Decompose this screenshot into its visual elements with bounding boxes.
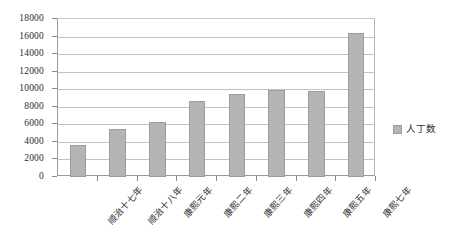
plot-area [57,18,375,176]
y-axis: 0200040006000800010000120001400016000180… [0,0,52,249]
x-category-label: 顺治十八年 [146,185,185,227]
y-tick-label: 8000 [24,101,44,111]
legend-swatch-icon [393,125,402,134]
x-tick-mark [97,176,98,181]
x-category-label: 康熙元年 [183,185,216,220]
x-category-label: 康熙三年 [262,185,295,220]
x-category-label: 康熙七年 [381,185,414,220]
bar [308,91,325,177]
x-tick-mark [296,176,297,181]
x-category-label: 顺治十七年 [106,185,145,227]
x-tick-mark [137,176,138,181]
x-tick-mark [216,176,217,181]
legend-label: 人丁数 [406,124,436,134]
y-tick-label: 0 [39,171,44,181]
x-axis-ticks [57,176,375,182]
y-tick-label: 6000 [24,118,44,128]
x-tick-mark [335,176,336,181]
chart-legend: 人丁数 [393,124,436,134]
bar [348,33,365,177]
bar-chart: 0200040006000800010000120001400016000180… [0,0,460,249]
y-tick-label: 12000 [19,66,44,76]
x-category-label: 康熙五年 [342,185,375,220]
x-category-label: 康熙四年 [302,185,335,220]
x-tick-mark [176,176,177,181]
bars-group [58,19,374,175]
y-tick-label: 2000 [24,153,44,163]
y-tick-label: 14000 [19,48,44,58]
bar [229,94,246,177]
y-tick-label: 10000 [19,83,44,93]
bar [268,90,285,177]
y-tick-label: 4000 [24,136,44,146]
bar [109,129,126,177]
x-category-label: 康熙二年 [222,185,255,220]
bar [70,145,87,177]
y-tick-label: 18000 [19,13,44,23]
bar [189,101,206,177]
y-tick-label: 16000 [19,31,44,41]
x-tick-mark [256,176,257,181]
bar [149,122,166,177]
x-tick-mark [375,176,376,181]
